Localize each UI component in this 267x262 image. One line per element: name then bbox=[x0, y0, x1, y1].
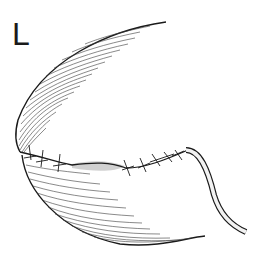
upper-hatching bbox=[19, 26, 150, 152]
stitches bbox=[24, 145, 184, 176]
lower-hatching bbox=[26, 165, 192, 242]
drain-tube bbox=[186, 150, 246, 232]
organ-illustration bbox=[0, 0, 267, 262]
illustration-canvas: L bbox=[0, 0, 267, 262]
